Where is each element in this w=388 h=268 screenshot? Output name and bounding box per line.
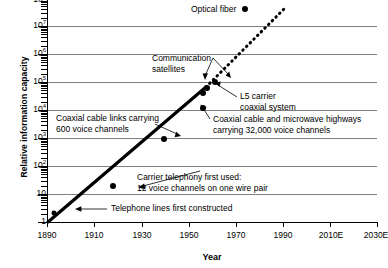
y-axis-line <box>47 0 48 223</box>
y-minor-tick <box>41 181 47 182</box>
annotation-l5-carrier-line2: coaxial system <box>240 102 296 113</box>
gridline-1e1 <box>47 194 377 195</box>
gridline-1e3 <box>47 138 377 139</box>
annotation-coaxial-600-line1: Coaxial cable links carrying <box>56 113 159 124</box>
data-point-coaxial-microwave <box>200 105 206 111</box>
arrow-telephone-lines <box>75 206 81 212</box>
y-minor-tick <box>41 86 47 87</box>
y-minor-tick <box>41 214 47 215</box>
y-minor-tick <box>41 34 47 35</box>
data-point-optical-fiber-marker <box>242 6 248 12</box>
y-axis-title: Relative information capacity <box>19 37 29 197</box>
y-minor-tick <box>41 144 47 145</box>
y-minor-tick <box>41 174 47 175</box>
annotation-l5-carrier: L5 carrier coaxial system <box>240 91 296 112</box>
annotation-coaxial-microwave-line2: carrying 32,000 voice channels <box>213 125 361 136</box>
annotation-coaxial-microwave: Coaxial cable and microwave highways car… <box>213 114 361 135</box>
y-minor-tick <box>41 58 47 59</box>
gridline-1e4 <box>47 110 377 111</box>
x-tick-label-1970: 1970 <box>227 230 246 240</box>
x-tick-1930 <box>142 222 143 227</box>
y-minor-tick <box>41 9 47 10</box>
y-minor-tick <box>41 90 47 91</box>
y-tick-label-1e2: 102 <box>33 161 46 170</box>
x-tick-label-1910: 1910 <box>85 230 104 240</box>
y-minor-tick <box>41 125 47 126</box>
arrow-coaxial-600 <box>175 132 181 137</box>
data-point-carrier-telephony <box>110 183 116 189</box>
y-minor-tick <box>41 146 47 147</box>
x-tick-1910 <box>94 222 95 227</box>
y-tick-label-1e8: 108 <box>33 0 46 4</box>
y-minor-tick <box>41 116 47 117</box>
annotation-coaxial-600: Coaxial cable links carrying 600 voice c… <box>56 113 159 134</box>
data-point-coaxial-600 <box>161 136 167 142</box>
y-minor-tick <box>41 13 47 14</box>
y-minor-tick <box>41 153 47 154</box>
x-tick-1950 <box>189 222 190 227</box>
y-minor-tick <box>41 198 47 199</box>
y-minor-tick <box>41 60 47 61</box>
y-minor-tick <box>41 30 47 31</box>
y-minor-tick <box>41 62 47 63</box>
x-tick-label-1890: 1890 <box>38 230 57 240</box>
y-tick-label-1e5: 105 <box>33 77 46 86</box>
annotation-telephone-lines: Telephone lines first constructed <box>111 203 232 214</box>
x-tick-1890 <box>47 222 48 227</box>
annotation-communication-satellites-line1: Communication <box>152 53 211 64</box>
arrow-communication-satellites <box>203 73 208 80</box>
y-minor-tick <box>41 88 47 89</box>
y-minor-tick <box>41 200 47 201</box>
y-minor-tick <box>41 37 47 38</box>
arrow-communication-satellites-2 <box>226 72 231 78</box>
projection-line <box>206 9 284 87</box>
y-minor-tick <box>41 41 47 42</box>
gridline-1e2 <box>47 166 377 167</box>
y-minor-tick <box>41 172 47 173</box>
x-tick-label-1990: 1990 <box>274 230 293 240</box>
trend-line <box>48 87 206 222</box>
x-tick-label-2010: 2010E <box>319 230 344 240</box>
annotation-coaxial-microwave-line1: Coaxial cable and microwave highways <box>213 114 361 125</box>
annotation-carrier-telephony: Carrier telephony first used: 12 voice c… <box>137 172 268 193</box>
data-point-l5-carrier-b <box>204 85 210 91</box>
x-tick-2030 <box>377 222 378 227</box>
x-axis-line <box>47 222 377 223</box>
y-minor-tick <box>41 177 47 178</box>
y-tick-label-1e3: 103 <box>33 133 46 142</box>
y-tick-label-1e0: 1 <box>41 217 46 226</box>
gridline-1e6 <box>47 54 377 55</box>
annotation-coaxial-600-line2: 600 voice channels <box>56 124 159 135</box>
gridline-1e7 <box>47 26 377 27</box>
y-tick-label-1e1: 10 <box>37 189 46 198</box>
x-tick-1990 <box>283 222 284 227</box>
y-minor-tick <box>41 97 47 98</box>
y-minor-tick <box>41 32 47 33</box>
x-tick-1970 <box>236 222 237 227</box>
y-minor-tick <box>41 142 47 143</box>
x-axis-title: Year <box>47 252 377 262</box>
data-point-l5-carrier-a <box>212 79 218 85</box>
y-minor-tick <box>41 205 47 206</box>
leader-l5-carrier <box>218 85 237 97</box>
x-tick-label-2030: 2030E <box>364 230 388 240</box>
y-minor-tick <box>41 4 47 5</box>
x-tick-label-1930: 1930 <box>133 230 152 240</box>
annotation-carrier-telephony-line2: 12 voice channels on one wire pair <box>137 183 268 194</box>
y-minor-tick <box>41 209 47 210</box>
y-minor-tick <box>41 170 47 171</box>
annotation-optical-fiber: Optical fiber <box>191 4 236 15</box>
y-minor-tick <box>41 121 47 122</box>
y-minor-tick <box>41 69 47 70</box>
x-tick-2010 <box>330 222 331 227</box>
y-minor-tick <box>41 118 47 119</box>
y-minor-tick <box>41 202 47 203</box>
data-point-telephone-lines <box>52 211 57 216</box>
y-tick-label-1e6: 106 <box>33 49 46 58</box>
y-minor-tick <box>41 93 47 94</box>
x-tick-label-1950: 1950 <box>180 230 199 240</box>
annotation-communication-satellites: Communication satellites <box>152 53 211 74</box>
y-minor-tick <box>41 65 47 66</box>
annotation-l5-carrier-line1: L5 carrier <box>240 91 296 102</box>
